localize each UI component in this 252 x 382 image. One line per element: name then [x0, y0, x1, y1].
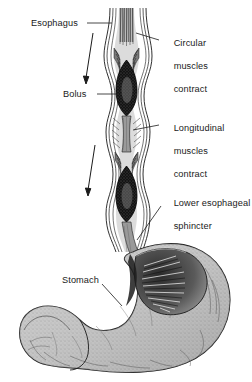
- leader-circular-muscles: [136, 33, 159, 40]
- label-stomach: Stomach: [62, 275, 99, 286]
- label-lower-esophageal-sphincter-line-1: Lower esophageal: [174, 198, 251, 208]
- peristalsis-arrows: [83, 33, 95, 196]
- label-circular-muscles: Circular muscles contract: [163, 27, 208, 107]
- contracted-segment: [122, 116, 131, 152]
- leader-stomach: [102, 284, 122, 306]
- label-esophagus: Esophagus: [31, 18, 78, 29]
- stomach-group: [20, 244, 230, 373]
- label-circular-muscles-line-3: contract: [174, 84, 207, 94]
- anatomy-figure: Esophagus Circular muscles contract Bolu…: [0, 0, 252, 382]
- label-longitudinal-muscles-line-3: contract: [174, 169, 207, 179]
- esophagus-group: [104, 8, 152, 254]
- leader-lower-esophageal-sphincter: [137, 206, 161, 240]
- arrow-down-upper: [83, 33, 93, 84]
- label-longitudinal-muscles-line-1: Longitudinal: [174, 123, 225, 133]
- arrow-down-lower: [85, 145, 95, 196]
- label-circular-muscles-line-1: Circular: [174, 38, 206, 48]
- label-lower-esophageal-sphincter-line-2: sphincter: [174, 221, 212, 231]
- label-circular-muscles-line-2: muscles: [174, 61, 208, 71]
- esophagus-upper-striations: [119, 8, 134, 46]
- label-lower-esophageal-sphincter: Lower esophageal sphincter: [163, 187, 250, 244]
- gastric-rugae-cutaway: [134, 249, 207, 315]
- label-bolus: Bolus: [63, 89, 86, 100]
- label-longitudinal-muscles-line-2: muscles: [174, 146, 208, 156]
- label-longitudinal-muscles: Longitudinal muscles contract: [163, 112, 224, 192]
